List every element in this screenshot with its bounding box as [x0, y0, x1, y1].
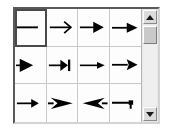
line-hook-end-icon — [110, 89, 142, 117]
arrow-style-cell-0[interactable] — [15, 9, 47, 47]
arrow-style-cell-8[interactable] — [15, 84, 47, 122]
arrow-style-cell-7[interactable] — [110, 47, 142, 85]
arrow-style-cell-10[interactable] — [78, 84, 110, 122]
arrow-triangle-left-edge-icon — [15, 52, 46, 79]
arrow-style-cell-4[interactable] — [15, 47, 47, 85]
arrow-style-cell-9[interactable] — [47, 84, 79, 122]
scroll-up-button[interactable] — [143, 10, 157, 24]
arrow-style-cell-1[interactable] — [47, 9, 79, 47]
arrow-open-thin-icon — [47, 14, 78, 41]
arrow-swept-left-icon — [78, 90, 109, 117]
arrow-filled-small-icon — [78, 14, 109, 41]
scrollbar-thumb[interactable] — [143, 26, 157, 44]
arrow-style-grid[interactable] — [15, 9, 141, 122]
arrow-style-cell-11[interactable] — [110, 84, 142, 122]
arrow-slim-filled-icon — [78, 52, 109, 79]
triangle-down-icon — [146, 112, 154, 117]
arrow-wedge-icon — [110, 51, 142, 79]
arrow-with-bar-icon — [47, 52, 78, 79]
arrow-style-picker-panel — [13, 7, 160, 124]
arrow-style-cell-2[interactable] — [78, 9, 110, 47]
arrow-style-cell-6[interactable] — [78, 47, 110, 85]
arrow-style-cell-3[interactable] — [110, 9, 142, 47]
arrow-style-cell-5[interactable] — [47, 47, 79, 85]
scroll-down-button[interactable] — [143, 107, 157, 121]
arrow-swept-right-icon — [47, 90, 78, 117]
arrow-short-filled-icon — [15, 90, 46, 117]
triangle-up-icon — [146, 15, 154, 20]
arrow-style-picker-root — [0, 0, 177, 132]
arrow-filled-icon — [110, 14, 142, 42]
arrow-style-scrollbar[interactable] — [141, 9, 158, 122]
line-plain-icon — [15, 14, 46, 41]
